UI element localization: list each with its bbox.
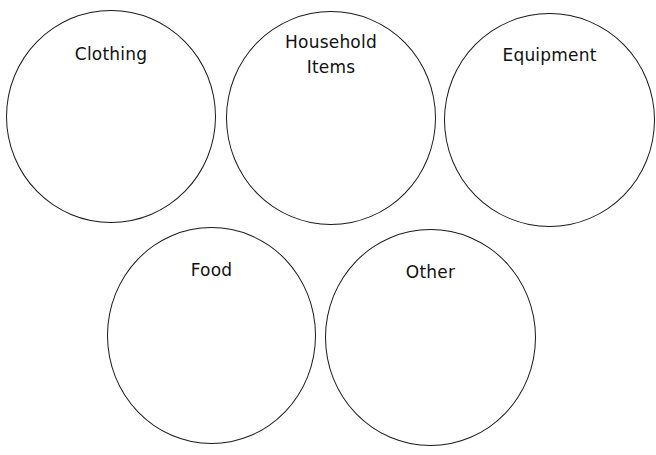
label-household-line2: Items — [227, 54, 435, 81]
label-other: Other — [326, 259, 535, 286]
label-food: Food — [108, 257, 315, 284]
circle-household-items: Household Items — [226, 11, 436, 225]
circle-equipment: Equipment — [444, 13, 655, 227]
circle-other: Other — [325, 229, 536, 446]
label-clothing: Clothing — [7, 41, 215, 68]
label-equipment: Equipment — [445, 42, 654, 69]
label-household-line1: Household — [227, 29, 435, 56]
circle-food: Food — [107, 227, 316, 444]
circle-clothing: Clothing — [6, 10, 216, 223]
